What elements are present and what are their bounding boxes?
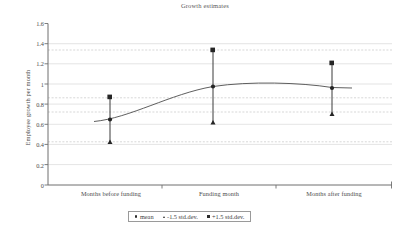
error-bar-group-1 bbox=[107, 95, 112, 144]
legend-item-upper-std-dev: +1.5 std.dev. bbox=[207, 213, 244, 220]
chart-legend: mean -1.5 std.dev. +1.5 std.dev. bbox=[128, 211, 251, 222]
error-bar-group-3 bbox=[329, 61, 334, 116]
mean-marker bbox=[211, 84, 215, 88]
mean-marker bbox=[330, 86, 334, 90]
legend-label: -1.5 std.dev. bbox=[167, 213, 198, 220]
chart-figure: Growth estimates Employee growth per mon… bbox=[0, 0, 410, 233]
dot-marker-icon bbox=[135, 215, 137, 217]
lower-std-marker bbox=[211, 120, 216, 125]
upper-std-marker bbox=[210, 48, 215, 53]
x-tick-label-funding-month: Funding month bbox=[164, 190, 274, 197]
x-tick-label-months-before-funding: Months before funding bbox=[56, 190, 166, 197]
mean-marker bbox=[108, 117, 112, 121]
trend-line bbox=[94, 83, 352, 121]
plot-area bbox=[0, 0, 410, 233]
legend-item-lower-std-dev: -1.5 std.dev. bbox=[163, 213, 198, 220]
legend-label: mean bbox=[140, 213, 154, 220]
grid-lines bbox=[48, 44, 392, 165]
x-tick-label-months-after-funding: Months after funding bbox=[278, 190, 390, 197]
legend-item-mean: mean bbox=[135, 213, 154, 220]
y-axis-ticks bbox=[45, 24, 49, 186]
legend-label: +1.5 std.dev. bbox=[212, 213, 244, 220]
upper-std-marker bbox=[329, 61, 334, 66]
square-marker-icon bbox=[207, 215, 210, 218]
upper-std-marker bbox=[107, 95, 112, 100]
error-bar-group-2 bbox=[210, 48, 215, 125]
lower-std-marker bbox=[108, 139, 113, 144]
triangle-marker-icon bbox=[163, 216, 165, 218]
